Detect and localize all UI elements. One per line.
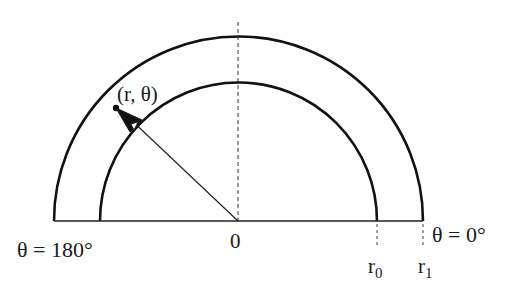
origin-label: 0 [230,229,241,253]
radius-line [127,116,238,221]
theta-0-label: θ = 0° [432,222,486,247]
theta-180-label: θ = 180° [17,237,93,262]
r0-label: r0 [368,254,383,281]
point-label: (r, θ) [117,82,158,106]
r1-label: r1 [418,254,433,281]
cone-marker-icon [116,108,142,132]
polar-annulus-diagram: (r, θ) 0 θ = 180° θ = 0° r0 r1 [0,0,515,292]
